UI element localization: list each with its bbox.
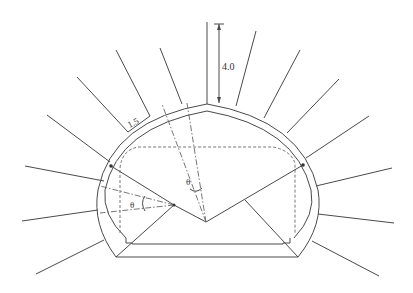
anchor-point <box>301 163 305 167</box>
angle-label-top: θ <box>186 177 190 187</box>
bolt-length-label: 4.0 <box>222 61 235 72</box>
excavation-outline <box>120 147 295 233</box>
tunnel-cross-section-diagram: 4.0 1.5 θ θ <box>0 0 413 293</box>
rock-bolts <box>22 22 394 276</box>
bolt-spacing-label: 1.5 <box>126 116 141 130</box>
anchor-point <box>109 164 113 168</box>
angle-label-left: θ <box>130 200 134 210</box>
angle-arc-top <box>190 188 202 191</box>
anchor-point <box>173 204 176 207</box>
